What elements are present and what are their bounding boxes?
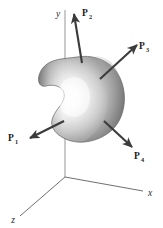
force-label-P2: P 2 (82, 8, 92, 20)
force-label-P3: P 3 (139, 41, 149, 53)
force-vector-P4-arrow (104, 121, 132, 147)
rigid-body-specular-highlight (58, 77, 90, 117)
mechanics-free-body-diagram: y x z P 1 P 2 P 3 P 4 (0, 0, 163, 228)
force-label-P3-subscript: 3 (146, 46, 149, 53)
force-vector-P2-arrow (74, 14, 82, 63)
x-axis-label: x (147, 188, 153, 198)
force-label-P4: P 4 (134, 151, 144, 163)
force-label-P3-letter: P (139, 41, 145, 51)
force-label-P1-subscript: 1 (15, 138, 18, 145)
x-axis-line (65, 177, 143, 191)
force-label-P2-subscript: 2 (89, 13, 92, 20)
force-label-P1-letter: P (8, 133, 14, 143)
z-axis-line (20, 177, 65, 216)
force-label-P2-letter: P (82, 8, 88, 18)
force-label-P4-letter: P (134, 151, 140, 161)
z-axis-label: z (10, 215, 15, 225)
diagram-canvas: y x z P 1 P 2 P 3 P 4 (0, 0, 163, 228)
force-label-P1: P 1 (8, 133, 18, 145)
y-axis-label: y (55, 9, 61, 19)
force-label-P4-subscript: 4 (141, 156, 144, 163)
